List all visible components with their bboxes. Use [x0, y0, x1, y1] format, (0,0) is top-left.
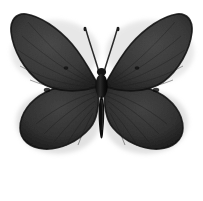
antenna-club-right: [117, 27, 120, 31]
thorax: [95, 74, 107, 98]
forewing-left-spot: [64, 66, 69, 70]
hindwing-right-spot: [153, 88, 159, 92]
scale-block: 1cm: [0, 150, 203, 201]
figure-plate: 1cm: [0, 0, 203, 201]
butterfly-illustration: [0, 0, 203, 160]
specimen-photo: [0, 0, 203, 160]
antenna-club-left: [84, 27, 87, 31]
hindwing-left-spot: [44, 88, 50, 92]
forewing-right-spot: [135, 66, 140, 70]
